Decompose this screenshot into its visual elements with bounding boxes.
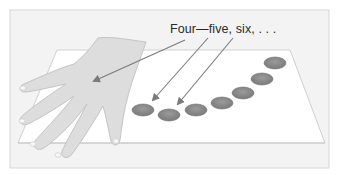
counter-6 (251, 73, 273, 85)
counting-caption: Four—five, six, . . . (170, 22, 276, 36)
counting-illustration: Four—five, six, . . . (0, 0, 340, 175)
counter-3 (185, 104, 207, 116)
counter-4 (211, 97, 233, 109)
counter-5 (232, 87, 254, 99)
counter-7 (264, 57, 286, 69)
counter-1 (132, 104, 154, 116)
counter-2 (158, 109, 180, 121)
